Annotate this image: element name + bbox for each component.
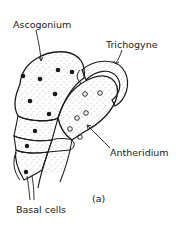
antheridium-leader	[88, 126, 110, 148]
trichogyne-label: Trichogyne	[106, 40, 158, 50]
antheridium-label: Antheridium	[110, 148, 169, 158]
ascogonium-leader	[36, 30, 41, 60]
basal-cells-leader-2	[32, 176, 34, 200]
basal-cells-label: Basal cells	[16, 205, 66, 215]
diagram-drawing	[0, 0, 176, 236]
subfigure-label: (a)	[92, 194, 105, 204]
ascogonium-antheridium-diagram: Ascogonium Trichogyne Antheridium Basal …	[0, 0, 176, 236]
ascogonium-label: Ascogonium	[13, 20, 71, 30]
trichogyne-leader	[116, 50, 122, 63]
basal-cells-leader-1	[27, 176, 30, 200]
